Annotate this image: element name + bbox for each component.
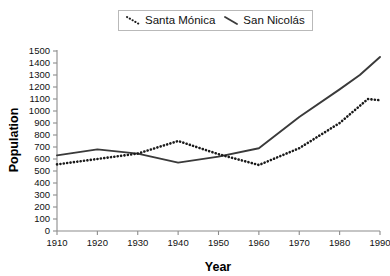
y-tick-label: 100 xyxy=(34,213,50,224)
x-axis-title: Year xyxy=(205,260,232,274)
y-tick-label: 200 xyxy=(34,201,50,212)
chart-root: Santa Mónica San Nicolás 010020030040050… xyxy=(0,0,390,276)
x-tick-label: 1920 xyxy=(87,237,108,248)
y-tick-label: 1500 xyxy=(29,45,50,56)
chart-svg: 0100200300400500600700800900100011001200… xyxy=(0,0,390,276)
x-axis-ticks: 191019201930194019501960197019801990 xyxy=(46,231,390,248)
x-tick-label: 1940 xyxy=(168,237,189,248)
y-tick-label: 1100 xyxy=(30,93,50,104)
x-tick-label: 1960 xyxy=(248,237,269,248)
y-tick-label: 500 xyxy=(34,165,50,176)
y-tick-label: 1200 xyxy=(29,81,50,92)
y-tick-label: 700 xyxy=(34,141,50,152)
x-tick-label: 1990 xyxy=(369,237,390,248)
chart-plot-area: 0100200300400500600700800900100011001200… xyxy=(0,0,390,276)
x-tick-label: 1930 xyxy=(127,237,148,248)
y-tick-label: 1400 xyxy=(29,57,50,68)
x-tick-label: 1970 xyxy=(289,237,310,248)
y-tick-label: 900 xyxy=(34,117,50,128)
x-tick-label: 1910 xyxy=(46,237,67,248)
series-line-san-nicolas xyxy=(57,57,380,163)
y-tick-label: 1000 xyxy=(29,105,50,116)
x-tick-label: 1980 xyxy=(329,237,350,248)
y-tick-label: 300 xyxy=(34,189,50,200)
y-tick-label: 600 xyxy=(34,153,50,164)
y-tick-label: 400 xyxy=(34,177,50,188)
y-tick-label: 800 xyxy=(34,129,50,140)
series-line-santa-monica xyxy=(57,99,380,165)
y-axis-title: Population xyxy=(7,108,21,173)
y-tick-label: 1300 xyxy=(29,69,50,80)
y-axis-ticks: 0100200300400500600700800900100011001200… xyxy=(29,45,57,236)
x-tick-label: 1950 xyxy=(208,237,229,248)
y-tick-label: 0 xyxy=(45,225,50,236)
